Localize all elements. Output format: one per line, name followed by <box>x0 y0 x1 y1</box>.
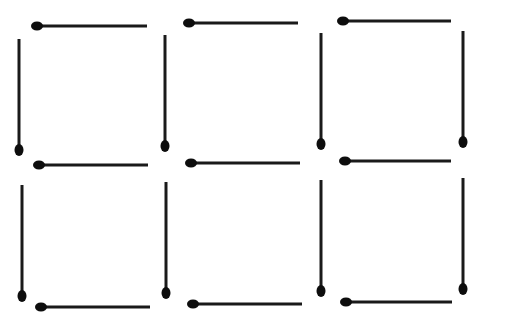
matchstick-vertical <box>459 31 468 148</box>
matchstick-horizontal <box>337 17 451 26</box>
matchstick-vertical <box>161 35 170 152</box>
matchstick-vertical <box>459 178 468 295</box>
match-head-icon <box>187 300 199 309</box>
matchstick-vertical <box>317 33 326 150</box>
match-head-icon <box>35 303 47 312</box>
match-head-icon <box>15 144 24 156</box>
matchstick-puzzle <box>0 0 525 320</box>
matchstick-horizontal <box>340 298 452 307</box>
match-head-icon <box>183 19 195 28</box>
match-head-icon <box>459 136 468 148</box>
match-head-icon <box>31 22 43 31</box>
matchstick-horizontal <box>339 157 451 166</box>
matchstick-vertical <box>18 185 27 302</box>
match-head-icon <box>317 138 326 150</box>
matchstick-vertical <box>317 180 326 297</box>
matchstick-horizontal <box>35 303 150 312</box>
match-head-icon <box>337 17 349 26</box>
match-head-icon <box>185 159 197 168</box>
matchstick-horizontal <box>31 22 147 31</box>
matchstick-horizontal <box>187 300 302 309</box>
matchstick-horizontal <box>183 19 298 28</box>
matchstick-vertical <box>15 39 24 156</box>
match-head-icon <box>18 290 27 302</box>
matchstick-horizontal <box>33 161 148 170</box>
match-head-icon <box>459 283 468 295</box>
match-head-icon <box>339 157 351 166</box>
match-head-icon <box>340 298 352 307</box>
match-head-icon <box>161 140 170 152</box>
match-head-icon <box>317 285 326 297</box>
matchstick-horizontal <box>185 159 300 168</box>
match-head-icon <box>162 287 171 299</box>
matchstick-vertical <box>162 182 171 299</box>
match-head-icon <box>33 161 45 170</box>
